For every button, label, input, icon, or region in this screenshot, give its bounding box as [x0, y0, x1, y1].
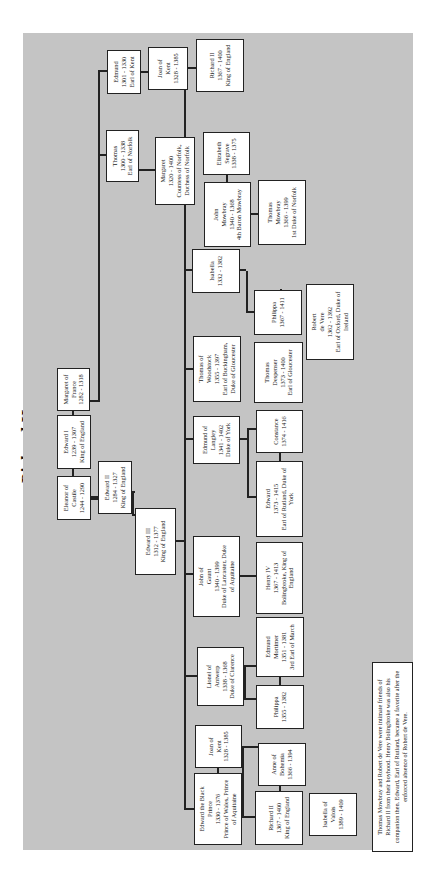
- person-box-richard-ii-upper: Richard II1367 - 1400King of England: [196, 39, 244, 92]
- person-box-edward-the-black-prince: Edward the BlackPrince1330 - 1376Prince …: [194, 773, 242, 845]
- connector: [184, 369, 193, 371]
- person-box-edmund-of-langley: Edmund ofLangley1341 - 1402Duke of York: [193, 416, 240, 464]
- person-box-thomas-despenser: ThomasDespenser1373 - 1400Earl of Glouce…: [254, 342, 303, 403]
- footnote-box: Thomas Mowbray and Robert de Vere were i…: [372, 662, 413, 852]
- person-box-eleanor-of-castile: Eleanor ofCastile1244 - 1290: [57, 476, 91, 520]
- person-box-joan-of-kent: Joan ofKent1328 - 1385: [195, 725, 242, 768]
- connector: [184, 676, 197, 678]
- marriage-line: [279, 677, 281, 685]
- person-box-isabella: Isabella1332 - 1382: [192, 249, 240, 293]
- person-box-anne-of-bohemia: Anne ofBohemia1366 - 1394: [258, 743, 306, 786]
- connector: [98, 71, 107, 73]
- connector: [184, 574, 193, 576]
- person-box-richard-ii: Richard II1367 - 1400King of England: [255, 791, 303, 845]
- person-box-thomas-of-woodstock: Thomas ofWoodstock1355 - 1397Earl of Buc…: [193, 336, 241, 402]
- person-box-john-of-gaunt: John ofGaunt1340 - 1399Duke of Lancaster…: [193, 536, 240, 617]
- connector: [184, 439, 193, 441]
- connector: [246, 312, 254, 314]
- person-box-edward-i: Edward I1239 - 1307King of England: [57, 415, 91, 469]
- person-box-philippa-de-coucy: Philippa1367 - 1411: [254, 290, 302, 335]
- person-box-edward-ii: Edward II1284 - 1327King of England: [98, 461, 132, 514]
- marriage-line: [226, 175, 228, 182]
- connector: [247, 497, 256, 499]
- connector: [247, 430, 249, 498]
- person-box-elizabeth-segrave: ElizabethSegrave1338 - 1375: [203, 132, 250, 175]
- family-tree-page: Richard II Edmund1301 - 13: [0, 0, 440, 895]
- connector: [139, 170, 155, 172]
- marriage-line: [72, 469, 74, 476]
- person-box-constance: Constance1374 - 1416: [256, 410, 303, 453]
- connector: [184, 270, 192, 272]
- connector: [251, 214, 258, 216]
- person-box-henry-iv: Henry IV1367 - 1413Bolingbroke, King ofE…: [256, 542, 303, 614]
- connector: [98, 72, 100, 402]
- person-box-joan-of-kent-upper: Joan ofKent1328 - 1385: [148, 47, 188, 90]
- connector: [141, 72, 148, 74]
- person-box-john-mowbray: JohnMowbray1340 - 13684th Baron Mowbray: [204, 182, 251, 247]
- connector: [242, 817, 255, 819]
- connector: [188, 68, 196, 70]
- person-box-edmund-mortimer: EdmundMortimer1351 - 13813rd Earl of Mar…: [256, 617, 304, 677]
- person-box-isabella-of-valois: Isabella ofValois1389 - 1409: [309, 793, 357, 836]
- connector: [240, 439, 247, 441]
- connector: [90, 401, 98, 403]
- connector: [98, 155, 106, 157]
- person-box-margaret-of-norfolk: Margaret1320 - 1400Countess of Norfolk,D…: [155, 137, 195, 205]
- connector: [244, 666, 256, 668]
- person-box-philippa-of-clarence: Philippa1355 - 1382: [256, 685, 304, 729]
- connector: [242, 748, 244, 818]
- person-box-robert-de-vere: Robertde Vere1362 - 1392Earl of Oxford, …: [306, 284, 354, 360]
- person-box-edmund-earl-of-kent: Edmund1301 - 1330Earl of Kent: [107, 50, 141, 94]
- person-box-edward-duke-of-york: Edward1373 - 1415Earl of Rutland, Duke o…: [256, 461, 303, 537]
- connector: [184, 809, 194, 811]
- person-box-lionel-of-antwerp: Lionel ofAntwerp1338 - 1368Duke of Clare…: [197, 647, 244, 706]
- connector: [244, 699, 256, 701]
- marriage-line: [279, 453, 281, 461]
- person-box-thomas-mowbray: ThomasMowbray1366 - 13991st Duke of Norf…: [258, 180, 306, 245]
- connector: [176, 541, 184, 543]
- connector: [244, 667, 246, 700]
- connector: [240, 576, 256, 578]
- person-box-thomas-earl-of-norfolk: Thomas1300 - 1338Earl of Norfolk: [106, 130, 139, 182]
- person-box-margaret-of-france: Margaret ofFrance1282 - 1318: [57, 368, 90, 411]
- connector: [247, 429, 256, 431]
- connector: [246, 271, 248, 313]
- person-box-edward-iii: Edward III1312 - 1377King of England: [135, 508, 176, 575]
- connector: [132, 493, 134, 516]
